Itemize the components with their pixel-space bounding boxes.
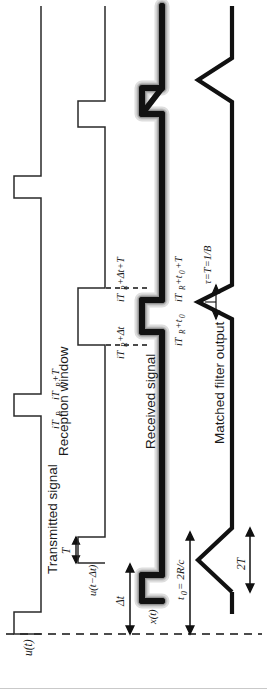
svg-text:R: R [179,285,187,291]
label-x-of-t: x(t) [147,609,159,625]
dimension-tau [205,285,219,319]
svg-text:iT: iT [173,292,184,302]
svg-text:iT: iT [115,349,126,359]
dimension-delta-t [126,564,134,634]
bottom-rule [0,688,267,689]
svg-text:0: 0 [179,314,187,318]
reception-window-trace [78,6,105,563]
dimension-2T [246,528,254,592]
dimension-t0 [186,532,194,634]
svg-text:+t: +t [173,275,184,285]
tick-label-iTR-plus-dt-plus-T: iT R +Δt+T [115,256,129,302]
tick-label-iTR-plus-dt: iT R +Δt [115,326,129,359]
svg-text:= 2R/c: = 2R/c [174,560,186,590]
label-transmitted-signal: Transmitted signal [45,464,60,574]
svg-text:0: 0 [180,591,189,595]
svg-text:iT: iT [115,292,126,302]
transmitted-signal-trace [14,6,41,634]
svg-text:R: R [121,342,129,348]
diagram-svg: u(t) Transmitted signal iT R iT R +T T [0,0,267,692]
label-T: T [60,546,72,554]
label-2T: 2T [235,556,247,570]
label-u-t-minus-delta-t: u(t−Δt) [87,564,99,596]
label-received-signal: Received signal [143,354,158,449]
label-delta-t: Δt [114,595,126,607]
label-t0-definition: t 0 = 2R/c [174,560,189,600]
svg-text:+Δt: +Δt [115,326,126,342]
svg-text:+T: +T [173,255,184,269]
tick-label-iTR-plus-t0: iT R +t 0 [173,314,187,346]
label-u-of-t: u(t) [22,639,35,656]
label-reception-window: Reception window [56,346,71,456]
svg-text:+Δt+T: +Δt+T [115,256,126,285]
svg-text:iT: iT [173,336,184,346]
svg-text:R: R [121,285,129,291]
svg-text:+t: +t [173,319,184,329]
matched-filter-output-trace [198,6,232,592]
tick-label-iTR-plus-t0-plus-T: iT R +t 0 +T [173,255,187,302]
svg-text:0: 0 [179,270,187,274]
svg-text:t: t [174,596,186,600]
label-matched-filter-output: Matched filter output [212,321,227,444]
received-signal-trace [142,6,162,601]
label-tau-definition: τ=T=1/B [202,245,213,284]
rotated-canvas: u(t) Transmitted signal iT R iT R +T T [0,0,267,692]
figure-root: u(t) Transmitted signal iT R iT R +T T [0,0,267,692]
svg-text:R: R [179,329,187,335]
